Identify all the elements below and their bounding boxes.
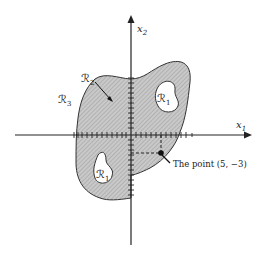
x2-axis-arrow-icon: [128, 15, 135, 23]
region-diagram: x2 x1 ℛ2 ℛ3 ℛ1 ℛ1 The point (5, −3): [0, 0, 266, 258]
point-marker: [158, 150, 164, 156]
region-r3-label: ℛ3: [58, 93, 71, 108]
region-r2-label: ℛ2: [81, 72, 94, 87]
x2-axis-label: x2: [137, 23, 148, 37]
point-label: The point (5, −3): [173, 159, 247, 169]
x1-axis-label: x1: [236, 119, 246, 133]
